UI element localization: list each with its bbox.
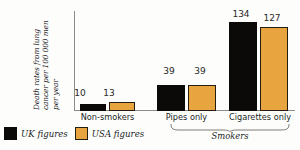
category-label-pipes-only: Pipes only — [157, 113, 216, 122]
category-label-cigarettes-only: Cigarettes only — [225, 113, 295, 122]
value-label-non-smokers-usa: 13 — [92, 89, 126, 98]
category-label-non-smokers: Non-smokers — [80, 113, 135, 122]
legend-swatch-usa-icon — [75, 127, 88, 140]
y-axis-label-container: Death rates from lung cancer per 100 000… — [30, 0, 70, 12]
bar-cigarettes-usa — [260, 27, 288, 111]
value-label-cigarettes-uk: 134 — [224, 10, 258, 19]
legend-entry-usa[interactable]: USA figures — [75, 127, 144, 140]
chart-legend: UK figures USA figures — [4, 127, 144, 140]
legend-label-uk: UK figures — [21, 129, 68, 139]
bar-pipes-usa — [188, 85, 216, 111]
legend-swatch-uk-icon — [4, 127, 17, 140]
bar-non-smokers-uk — [80, 104, 106, 111]
bar-cigarettes-uk — [229, 22, 257, 111]
legend-label-usa: USA figures — [92, 129, 144, 139]
legend-entry-uk[interactable]: UK figures — [4, 127, 68, 140]
value-label-cigarettes-usa: 127 — [255, 14, 289, 23]
value-label-pipes-usa: 39 — [183, 67, 217, 76]
value-label-pipes-uk: 39 — [152, 67, 186, 76]
y-axis-label: Death rates from lung cancer per 100 000… — [32, 12, 60, 110]
lung-cancer-death-rate-bar-chart: Death rates from lung cancer per 100 000… — [0, 0, 300, 150]
bar-non-smokers-usa — [109, 102, 135, 111]
bar-pipes-uk — [157, 85, 185, 111]
smokers-group-label: Smokers — [170, 131, 290, 141]
